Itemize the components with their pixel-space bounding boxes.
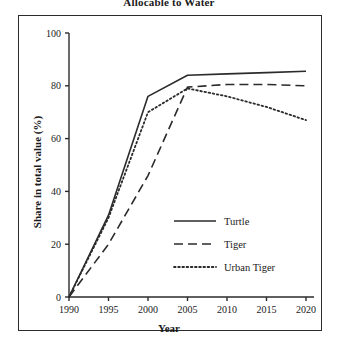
- x-tick-label: 2010: [217, 304, 237, 315]
- x-axis-label: Year: [0, 322, 338, 334]
- y-tick-label: 100: [46, 28, 61, 39]
- x-tick-label: 2000: [138, 304, 158, 315]
- legend-label-turtle: Turtle: [224, 216, 250, 227]
- x-axis: 1990199520002005201020152020: [59, 297, 316, 315]
- y-tick-label: 20: [51, 239, 61, 250]
- x-tick-label: 2015: [257, 304, 277, 315]
- y-tick-label: 0: [56, 292, 61, 303]
- chart-figure: Allocable to Water 020406080100 19901995…: [0, 0, 338, 350]
- y-axis-label: Share in total value (%): [31, 92, 43, 252]
- y-tick-label: 60: [51, 133, 61, 144]
- y-axis: 020406080100: [46, 28, 69, 303]
- x-tick-label: 1995: [99, 304, 119, 315]
- y-tick-label: 80: [51, 80, 61, 91]
- legend-label-urban-tiger: Urban Tiger: [224, 262, 276, 273]
- plot-area: 020406080100 199019952000200520102015202…: [19, 16, 320, 329]
- plot-frame: 020406080100 199019952000200520102015202…: [18, 15, 322, 331]
- legend-label-tiger: Tiger: [224, 239, 247, 250]
- y-tick-label: 40: [51, 186, 61, 197]
- x-tick-label: 1990: [59, 304, 79, 315]
- chart-title: Allocable to Water: [0, 0, 338, 7]
- chart-legend: TurtleTigerUrban Tiger: [174, 216, 276, 273]
- x-tick-label: 2020: [296, 304, 316, 315]
- x-tick-label: 2005: [178, 304, 198, 315]
